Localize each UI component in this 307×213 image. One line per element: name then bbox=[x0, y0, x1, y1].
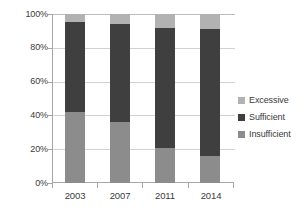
x-tick-mark-0 bbox=[52, 183, 53, 188]
legend-label-insufficient: Insufficient bbox=[249, 130, 291, 139]
x-tick-mark-1 bbox=[97, 183, 98, 188]
bar-group-2007 bbox=[110, 14, 130, 183]
bar-segment-insufficient-2003[interactable] bbox=[65, 112, 85, 183]
legend-item-insufficient[interactable]: Insufficient bbox=[238, 126, 306, 143]
bar-2003[interactable] bbox=[65, 14, 85, 183]
legend-label-excessive: Excessive bbox=[249, 96, 289, 105]
bar-group-2003 bbox=[65, 14, 85, 183]
bar-group-2011 bbox=[155, 14, 175, 183]
bars-layer bbox=[52, 14, 234, 183]
x-tick-mark-3 bbox=[188, 183, 189, 188]
bar-segment-insufficient-2014[interactable] bbox=[200, 156, 220, 183]
legend-swatch-insufficient-icon bbox=[238, 131, 245, 138]
legend-label-sufficient: Sufficient bbox=[249, 113, 285, 122]
bar-segment-sufficient-2011[interactable] bbox=[155, 28, 175, 148]
legend-swatch-sufficient-icon bbox=[238, 114, 245, 121]
chart-legend: Excessive Sufficient Insufficient bbox=[238, 92, 306, 143]
legend-item-excessive[interactable]: Excessive bbox=[238, 92, 306, 109]
bar-segment-excessive-2011[interactable] bbox=[155, 14, 175, 28]
y-axis-label-60: 60% bbox=[2, 77, 48, 86]
y-axis-label-100: 100% bbox=[2, 10, 48, 19]
bar-2011[interactable] bbox=[155, 14, 175, 183]
y-axis-label-20: 20% bbox=[2, 145, 48, 154]
bar-group-2014 bbox=[200, 14, 220, 183]
y-axis-label-80: 80% bbox=[2, 43, 48, 52]
bar-segment-excessive-2003[interactable] bbox=[65, 14, 85, 22]
legend-swatch-excessive-icon bbox=[238, 97, 245, 104]
x-tick-mark-2 bbox=[142, 183, 143, 188]
y-axis-label-0: 0% bbox=[2, 179, 48, 188]
x-tick-mark-4 bbox=[233, 183, 234, 188]
bar-2007[interactable] bbox=[110, 14, 130, 183]
bar-2014[interactable] bbox=[200, 14, 220, 183]
bar-segment-excessive-2007[interactable] bbox=[110, 14, 130, 24]
stacked-bar-chart: 100% 80% 60% 40% 20% 0% bbox=[0, 0, 307, 213]
bar-segment-sufficient-2007[interactable] bbox=[110, 24, 130, 122]
bar-segment-excessive-2014[interactable] bbox=[200, 14, 220, 29]
x-axis-label-2003: 2003 bbox=[52, 191, 98, 201]
legend-item-sufficient[interactable]: Sufficient bbox=[238, 109, 306, 126]
bar-segment-insufficient-2007[interactable] bbox=[110, 122, 130, 183]
y-axis-label-40: 40% bbox=[2, 111, 48, 120]
x-axis-label-2007: 2007 bbox=[97, 191, 143, 201]
x-axis-label-2011: 2011 bbox=[142, 191, 188, 201]
bar-segment-sufficient-2003[interactable] bbox=[65, 22, 85, 112]
bar-segment-insufficient-2011[interactable] bbox=[155, 148, 175, 183]
x-axis-label-2014: 2014 bbox=[188, 191, 234, 201]
bar-segment-sufficient-2014[interactable] bbox=[200, 29, 220, 156]
